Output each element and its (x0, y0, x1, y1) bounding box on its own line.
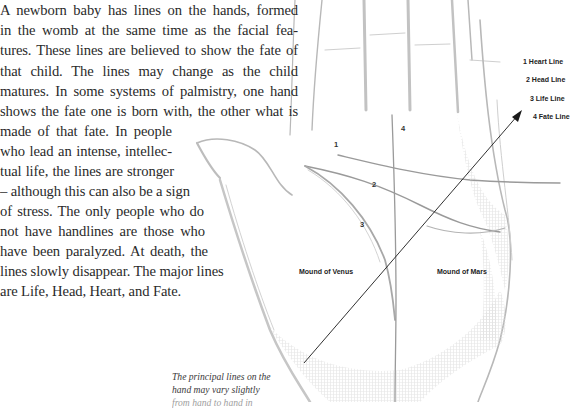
life-line (305, 166, 395, 320)
body-line-wrap: – although this can also be a sign (0, 181, 183, 201)
fate-line-number: 4 (401, 124, 405, 133)
caption-line: from hand to hand in (172, 396, 271, 409)
mound-of-venus-label: Mound of Venus (299, 268, 353, 275)
text-line: tual life, the lines are stronger (0, 161, 174, 181)
body-line-wrap: who lead an intense, intellec- (0, 141, 172, 161)
body-line-wrap: lines slowly disappear. The major lines (0, 261, 219, 281)
text-line: that child. The lines may change as the … (0, 61, 298, 81)
text-line: are Life, Head, Heart, and Fate. (0, 281, 220, 301)
mound-of-mars-label: Mound of Mars (437, 268, 487, 275)
legend-life-line: 3 Life Line (530, 95, 565, 102)
text-line: A newborn baby has lines on the hands, f… (0, 0, 298, 20)
body-line-wrap: are Life, Head, Heart, and Fate. (0, 281, 220, 301)
heart-line (338, 155, 560, 183)
body-line-wrap: tual life, the lines are stronger (0, 161, 174, 181)
text-line: tures. These lines are believed to show … (0, 40, 298, 60)
text-line: of stress. The only people who do (0, 201, 204, 221)
text-line: made of that fate. In people (0, 121, 172, 141)
text-line: in the womb at the same time as the faci… (0, 20, 298, 40)
body-line-wrap: of stress. The only people who do (0, 201, 204, 221)
text-line: not have handlines are those who (0, 221, 205, 241)
caption-line: hand may vary slightly (172, 383, 271, 396)
head-line-number: 2 (372, 180, 376, 189)
figure-caption: The principal lines on the hand may vary… (172, 370, 271, 409)
heart-line-number: 1 (334, 140, 338, 149)
caption-line: The principal lines on the (172, 370, 271, 383)
body-paragraph-continued: made of that fate. In people (0, 121, 172, 141)
legend-heart-line: 1 Heart Line (523, 58, 563, 65)
text-line: lines slowly disappear. The major lines (0, 261, 219, 281)
text-line: have been paralyzed. At death, the (0, 241, 208, 261)
life-line-number: 3 (360, 220, 364, 229)
legend-fate-line: 4 Fate Line (533, 113, 570, 120)
body-line-wrap: not have handlines are those who (0, 221, 205, 241)
body-line-wrap: have been paralyzed. At death, the (0, 241, 208, 261)
legend-head-line: 2 Head Line (526, 76, 565, 83)
text-line: – although this can also be a sign (0, 181, 183, 201)
body-paragraph: A newborn baby has lines on the hands, f… (0, 0, 298, 121)
palm-shading (268, 100, 509, 402)
text-line: matures. In some systems of palmistry, o… (0, 81, 298, 101)
text-line: shows the fate one is born with, the oth… (0, 101, 298, 121)
text-line: who lead an intense, intellec- (0, 141, 172, 161)
